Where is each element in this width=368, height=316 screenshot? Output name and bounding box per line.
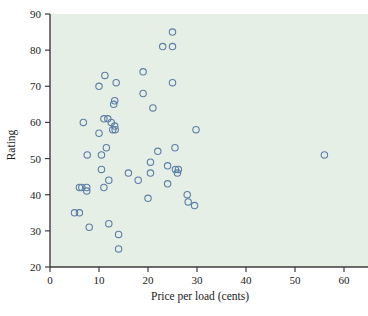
y-tick-label: 70 [30,80,42,92]
y-axis-ticks: 2030405060708090 [30,8,50,273]
x-tick-label: 40 [241,274,253,286]
x-tick-label: 20 [143,274,155,286]
x-tick-label: 50 [290,274,302,286]
x-tick-label: 0 [47,274,53,286]
y-tick-label: 90 [30,8,42,20]
y-tick-label: 60 [30,116,42,128]
x-tick-label: 10 [94,274,106,286]
y-tick-label: 20 [30,261,42,273]
y-tick-label: 50 [30,153,42,165]
chart-canvas: 2030405060708090 0102030405060 Price per… [0,0,368,316]
y-axis-title: Rating [5,129,18,160]
x-axis-title: Price per load (cents) [151,290,249,303]
y-tick-label: 80 [30,44,42,56]
y-tick-label: 30 [30,225,42,237]
x-tick-label: 60 [339,274,351,286]
y-tick-label: 40 [30,189,42,201]
x-tick-label: 30 [192,274,204,286]
x-axis-ticks: 0102030405060 [47,267,350,286]
scatter-plot-figure: 2030405060708090 0102030405060 Price per… [0,0,368,316]
plot-background [50,14,368,267]
